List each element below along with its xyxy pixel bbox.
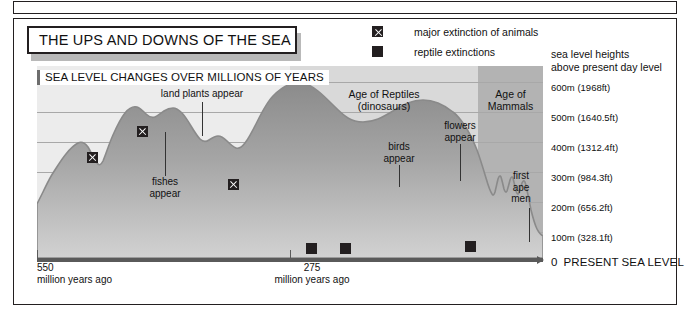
y-axis-label-200: 200m (656.2ft) (551, 202, 613, 213)
annotation-flowers-line2: appear (431, 132, 489, 144)
x-axis-label-275: 275 million years ago (247, 262, 377, 286)
annotation-birds-line1: birds (373, 141, 425, 153)
x-axis-label-550-unit: million years ago (37, 274, 112, 285)
legend-item-reptile-extinction: reptile extinctions (372, 43, 538, 60)
leader-line-ape-men (529, 208, 530, 242)
chart-subtitle: SEA LEVEL CHANGES OVER MILLIONS OF YEARS (37, 70, 329, 85)
annotation-flowers-appear: flowers appear (431, 120, 489, 143)
annotation-flowers-line1: flowers (431, 120, 489, 132)
marker-major-extinction[interactable] (137, 126, 148, 137)
leader-line-land-plants (202, 102, 203, 136)
era-label-mammals-line1: Age of (478, 88, 543, 100)
marker-reptile-extinction[interactable] (306, 243, 317, 254)
marker-reptile-extinction[interactable] (340, 243, 351, 254)
annotation-fishes-appear: fishes appear (137, 176, 193, 199)
screenshot-root: THE UPS AND DOWNS OF THE SEA major extin… (0, 0, 687, 309)
x-axis-label-550: 550 million years ago (37, 262, 112, 286)
era-label-reptiles: Age of Reptiles (dinosaurs) (290, 88, 478, 112)
x-square-icon (372, 26, 383, 37)
x-axis-label-550-value: 550 (37, 262, 112, 274)
y-axis-labels: 600m (1968ft) 500m (1640.5ft) 400m (1312… (551, 0, 687, 309)
annotation-ape-line2: ape (503, 182, 539, 194)
annotation-ape-line1: first (503, 170, 539, 182)
marker-major-extinction[interactable] (87, 152, 98, 163)
y-axis-label-300: 300m (984.3ft) (551, 172, 613, 183)
annotation-fishes-line1: fishes (137, 176, 193, 188)
y-axis-label-600: 600m (1968ft) (551, 82, 610, 93)
x-axis-label-275-unit: million years ago (274, 274, 349, 285)
leader-line-fishes (165, 132, 166, 176)
era-label-mammals: Age of Mammals (478, 88, 543, 112)
y-axis-label-100: 100m (328.1ft) (551, 232, 613, 243)
y-axis-label-400: 400m (1312.4ft) (551, 142, 618, 153)
x-axis-arrow-icon (537, 256, 544, 264)
era-label-mammals-line2: Mammals (478, 100, 543, 112)
marker-reptile-extinction[interactable] (465, 241, 476, 252)
era-label-reptiles-line2: (dinosaurs) (290, 100, 478, 112)
x-axis-label-275-value: 275 (247, 262, 377, 274)
y-axis-label-zero: 0PRESENT SEA LEVEL (551, 256, 684, 268)
annotation-birds-appear: birds appear (373, 141, 425, 164)
sea-level-chart: Age of Reptiles (dinosaurs) Age of Mamma… (37, 66, 543, 258)
y-axis-zero-value: 0 (551, 256, 558, 268)
annotation-birds-line2: appear (373, 153, 425, 165)
legend-item-label: reptile extinctions (414, 46, 495, 58)
x-axis-tick-275 (290, 250, 291, 258)
annotation-ape-line3: men (503, 193, 539, 205)
y-axis-label-500: 500m (1640.5ft) (551, 112, 618, 123)
y-axis-zero-text: PRESENT SEA LEVEL (564, 256, 684, 268)
annotation-land-plants-appear: land plants appear (137, 88, 267, 100)
legend-item-major-extinction: major extinction of animals (372, 23, 538, 40)
legend-item-label: major extinction of animals (414, 26, 538, 38)
marker-major-extinction[interactable] (228, 179, 239, 190)
annotation-first-ape-men: first ape men (503, 170, 539, 205)
legend: major extinction of animals reptile exti… (372, 23, 538, 63)
leader-line-birds (399, 165, 400, 187)
filled-square-icon (372, 46, 383, 57)
annotation-fishes-line2: appear (137, 188, 193, 200)
page-title: THE UPS AND DOWNS OF THE SEA (27, 26, 297, 54)
page-title-text: THE UPS AND DOWNS OF THE SEA (39, 32, 291, 48)
leader-line-flowers (460, 144, 461, 181)
x-axis-tick (37, 250, 38, 258)
era-label-reptiles-line1: Age of Reptiles (290, 88, 478, 100)
